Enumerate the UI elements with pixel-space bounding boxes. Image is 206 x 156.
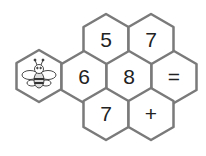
cell-r2c1-value: 6 xyxy=(64,62,104,92)
cell-r2c3-value: = xyxy=(154,62,194,92)
cell-r2c2-value: 8 xyxy=(109,62,149,92)
cell-r3c1-value: 7 xyxy=(86,99,126,129)
cell-r1c2-value: 7 xyxy=(131,25,171,55)
cell-r1c1-value: 5 xyxy=(86,25,126,55)
cell-r3c2-value: + xyxy=(131,99,171,129)
